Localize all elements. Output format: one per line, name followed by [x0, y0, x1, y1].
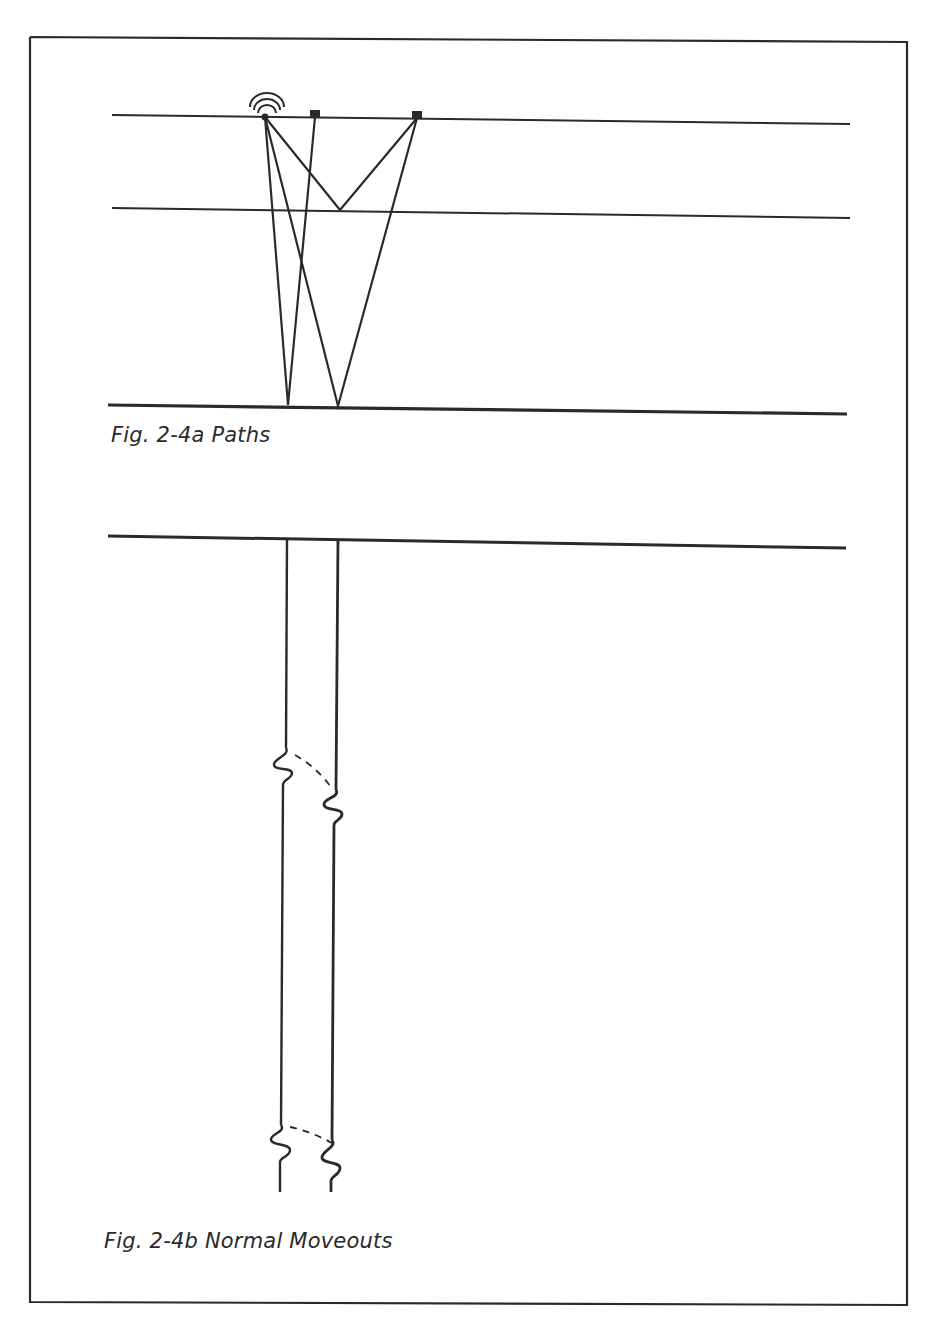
ray-paths: [265, 117, 417, 406]
deep-reflector-line: [108, 405, 847, 414]
moveout-curve-1: [295, 755, 333, 790]
figure-b-moveouts: [108, 536, 846, 1192]
receiver-2-icon: [412, 111, 422, 118]
trace-1: [271, 538, 292, 1192]
figure-a-paths: [108, 93, 850, 414]
figure-a-caption: Fig. 2-4a Paths: [111, 423, 270, 447]
figure-b-caption: Fig. 2-4b Normal Moveouts: [104, 1229, 393, 1253]
moveout-curves: [290, 755, 333, 1143]
figure-frame: [0, 0, 927, 1319]
trace-2: [322, 539, 342, 1192]
time-zero-line: [108, 536, 846, 548]
wavelet-2b: [322, 1140, 340, 1181]
shallow-reflector-line: [112, 208, 850, 218]
receiver-1-icon: [310, 110, 320, 117]
moveout-curve-2: [290, 1127, 332, 1143]
wavelet-1a: [274, 748, 292, 785]
source-icon: [250, 93, 284, 120]
surface-line: [112, 115, 850, 124]
wavelet-2a: [324, 790, 342, 825]
wavelet-1b: [271, 1125, 290, 1162]
page-border: [30, 37, 907, 1305]
